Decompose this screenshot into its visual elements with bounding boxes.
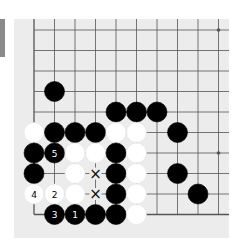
- white-stone[interactable]: [127, 123, 147, 143]
- black-stone[interactable]: [188, 184, 208, 204]
- black-stone[interactable]: 5: [45, 143, 65, 163]
- move-number: 5: [52, 149, 58, 159]
- white-stone[interactable]: [65, 164, 85, 184]
- white-stone[interactable]: [127, 205, 147, 225]
- x-mark-icon: ×: [89, 185, 102, 203]
- white-stone[interactable]: [65, 143, 85, 163]
- black-stone[interactable]: 3: [45, 205, 65, 225]
- move-number: 1: [72, 210, 78, 220]
- move-number: 4: [31, 190, 37, 200]
- black-stone[interactable]: [86, 205, 106, 225]
- white-stone[interactable]: [127, 184, 147, 204]
- black-stone[interactable]: [106, 205, 126, 225]
- black-stone[interactable]: [24, 143, 44, 163]
- star-point: [217, 28, 221, 32]
- white-stone[interactable]: [106, 123, 126, 143]
- black-stone[interactable]: [106, 184, 126, 204]
- black-stone[interactable]: [147, 102, 167, 122]
- black-stone[interactable]: [106, 164, 126, 184]
- x-mark-icon: ×: [89, 165, 102, 183]
- black-stone[interactable]: [106, 143, 126, 163]
- white-stone[interactable]: [127, 164, 147, 184]
- black-stone[interactable]: [45, 123, 65, 143]
- black-stone[interactable]: [168, 164, 188, 184]
- side-tab: [0, 19, 5, 57]
- white-stone[interactable]: 2: [45, 184, 65, 204]
- black-stone[interactable]: [86, 123, 106, 143]
- white-stone[interactable]: 4: [24, 184, 44, 204]
- move-number: 3: [52, 210, 58, 220]
- white-stone[interactable]: [24, 123, 44, 143]
- black-stone[interactable]: [168, 123, 188, 143]
- black-stone[interactable]: [45, 82, 65, 102]
- black-stone[interactable]: [24, 164, 44, 184]
- star-point: [217, 151, 221, 155]
- black-stone[interactable]: [127, 102, 147, 122]
- move-number: 2: [52, 190, 58, 200]
- white-stone[interactable]: [127, 143, 147, 163]
- go-board[interactable]: ××54231: [14, 19, 229, 238]
- black-stone[interactable]: 1: [65, 205, 85, 225]
- go-board-grid: ××54231: [14, 19, 229, 238]
- white-stone[interactable]: [86, 143, 106, 163]
- black-stone[interactable]: [106, 102, 126, 122]
- black-stone[interactable]: [65, 123, 85, 143]
- white-stone[interactable]: [65, 184, 85, 204]
